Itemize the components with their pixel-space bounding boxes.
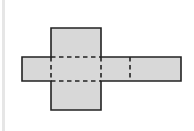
- bottom-face: [51, 57, 101, 110]
- prism-net-diagram: [0, 0, 194, 131]
